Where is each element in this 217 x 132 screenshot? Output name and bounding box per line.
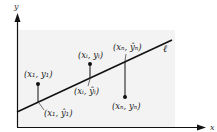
regression-diagram: y x ℓ (x₁, y₁) (x₁, ŷ₁) (xᵢ, yᵢ) (xᵢ, — [0, 0, 217, 132]
observed-point-1 — [36, 82, 40, 86]
fitted-label-n: (xₙ, ŷₙ) — [113, 42, 142, 52]
fitted-label-1: (x₁, ŷ₁) — [44, 108, 72, 118]
observed-point-i — [88, 62, 92, 66]
y-axis-arrow-icon — [15, 13, 21, 22]
observed-label-i: (xᵢ, yᵢ) — [78, 50, 103, 60]
x-axis-arrow-icon — [197, 125, 206, 131]
observed-label-1: (x₁, y₁) — [24, 69, 52, 79]
regression-line-label: ℓ — [163, 43, 167, 54]
observed-label-n: (xₙ, yₙ) — [112, 101, 141, 111]
x-axis-label: x — [210, 123, 215, 132]
y-axis-label: y — [13, 2, 19, 11]
observed-point-n — [123, 95, 127, 99]
fitted-label-i: (xᵢ, ŷᵢ) — [74, 86, 99, 96]
